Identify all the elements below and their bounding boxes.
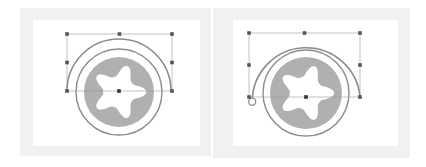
resize-handle-icon[interactable] bbox=[170, 61, 174, 65]
illustration-canvas bbox=[0, 0, 426, 167]
resize-handle-icon[interactable] bbox=[65, 61, 69, 65]
center-point-handle-icon[interactable] bbox=[117, 89, 121, 93]
center-point-handle-icon[interactable] bbox=[304, 95, 308, 99]
resize-handle-icon[interactable] bbox=[65, 32, 69, 36]
resize-handle-icon[interactable] bbox=[118, 32, 122, 36]
resize-handle-icon[interactable] bbox=[170, 89, 174, 93]
resize-handle-icon[interactable] bbox=[358, 31, 362, 35]
resize-handle-icon[interactable] bbox=[358, 63, 362, 67]
resize-handle-icon[interactable] bbox=[247, 95, 251, 99]
resize-handle-icon[interactable] bbox=[358, 95, 362, 99]
resize-handle-icon[interactable] bbox=[247, 63, 251, 67]
arc-endpoint-handle-icon[interactable] bbox=[249, 98, 256, 105]
resize-handle-icon[interactable] bbox=[65, 89, 69, 93]
resize-handle-icon[interactable] bbox=[170, 32, 174, 36]
resize-handle-icon[interactable] bbox=[303, 31, 307, 35]
resize-handle-icon[interactable] bbox=[247, 31, 251, 35]
